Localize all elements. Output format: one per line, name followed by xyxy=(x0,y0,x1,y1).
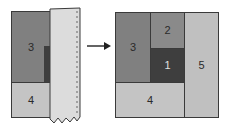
after-block-2: 2 xyxy=(150,12,185,49)
block-label: 3 xyxy=(28,42,34,53)
block-label: 4 xyxy=(147,95,153,106)
block-label: 5 xyxy=(198,60,204,71)
after-block-3: 3 xyxy=(115,12,151,83)
block-label: 4 xyxy=(28,95,34,106)
block-label: 3 xyxy=(130,42,136,53)
block-label: 1 xyxy=(164,60,170,71)
after-block-4: 4 xyxy=(115,82,185,118)
perforated-paper-icon xyxy=(47,5,83,129)
after-block-1: 1 xyxy=(150,48,185,83)
block-label: 2 xyxy=(164,25,170,36)
after-block-5: 5 xyxy=(184,12,219,118)
before-block-4: 4 xyxy=(11,82,51,118)
right-arrow-icon xyxy=(86,41,112,51)
